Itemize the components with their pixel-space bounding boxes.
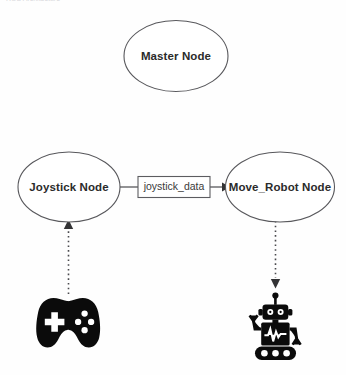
gamepad-icon	[36, 298, 100, 348]
node-move-robot-label: Move_Robot Node	[229, 181, 331, 193]
robot-arm-right-shape	[290, 329, 297, 339]
robot-wheel-center-icon	[272, 350, 279, 357]
node-master-label: Master Node	[141, 50, 211, 62]
robot-claw-right-icon	[293, 338, 301, 344]
node-move-robot[interactable]: Move_Robot Node	[226, 152, 335, 222]
ros-node-diagram: Master Node Joystick Node Move_Robot Nod…	[0, 0, 346, 375]
gamepad-button-bottom-icon	[81, 327, 87, 333]
robot-pupil-left-icon	[269, 311, 271, 313]
robot-pupil-right-icon	[279, 311, 281, 313]
node-master[interactable]: Master Node	[124, 21, 228, 92]
robot-icon	[250, 293, 301, 361]
robot-neck-shape	[272, 320, 278, 323]
node-joystick[interactable]: Joystick Node	[18, 152, 120, 222]
robot-head-shape	[263, 304, 289, 319]
arrowhead-down-icon	[271, 279, 280, 289]
robot-ear-right-shape	[288, 309, 292, 315]
gamepad-button-left-icon	[75, 319, 81, 325]
robot-ear-left-shape	[258, 309, 262, 315]
robot-claw-left-icon	[250, 315, 258, 321]
robot-antenna-knob-icon	[272, 293, 278, 299]
robot-wheel-right-icon	[283, 350, 290, 357]
topic-joystick-data-label: joystick_data	[143, 180, 205, 192]
gamepad-button-top-icon	[81, 310, 87, 316]
robot-arm-left-shape	[253, 321, 261, 330]
diagram-canvas: ROS Architecture Master Node Joystick No…	[0, 0, 346, 375]
robot-wheel-left-icon	[261, 350, 268, 357]
gamepad-button-right-icon	[88, 319, 94, 325]
topic-joystick-data[interactable]: joystick_data	[138, 177, 210, 198]
node-joystick-label: Joystick Node	[29, 181, 108, 193]
